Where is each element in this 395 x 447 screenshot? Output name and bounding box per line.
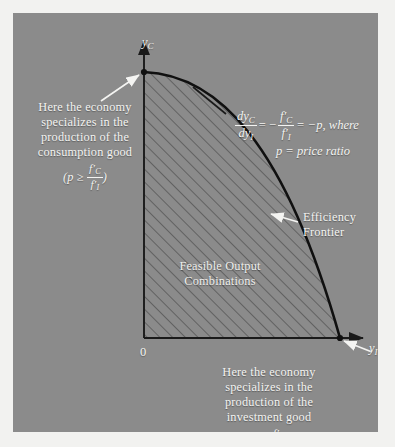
label-feasible-output-combinations: Feasible Output Combinations — [156, 259, 284, 289]
region-label-line: Feasible Output — [156, 259, 284, 274]
label-efficiency-frontier: Efficiency Frontier — [303, 210, 378, 240]
annotation-line: Here the economy — [189, 365, 349, 380]
y-axis-label: yC — [142, 35, 154, 51]
annotation-line: production of the — [21, 130, 149, 145]
frontier-label-line: Frontier — [303, 225, 378, 240]
annotation-consumption-specialization: Here the economy specializes in the prod… — [21, 100, 149, 193]
figure-panel: yC yI 0 Here the economy specializes in … — [13, 13, 378, 432]
formula-price-ratio: dyC dyI = − f′C f′I = −p, where p = pric… — [235, 109, 378, 159]
formula-price-ratio-definition: p = price ratio — [235, 144, 378, 159]
region-label-line: Combinations — [156, 274, 284, 289]
y-intercept-point — [141, 69, 147, 75]
annotation-condition: (p ≥ f′C f′I ) — [21, 162, 149, 193]
leader-arrow-investment — [344, 341, 372, 352]
annotation-condition: (p ≤ f′C f′I ) — [189, 427, 349, 432]
origin-label: 0 — [140, 345, 146, 360]
x-axis-label: yI — [369, 341, 378, 357]
leader-arrow-consumption — [101, 75, 139, 101]
formula-equals-first: = − — [259, 118, 276, 133]
annotation-line: Here the economy — [21, 100, 149, 115]
annotation-line: specializes in the — [189, 380, 349, 395]
formula-equals-second: = −p, where — [296, 118, 359, 133]
annotation-line: consumption good — [21, 145, 149, 160]
x-intercept-point — [337, 335, 343, 341]
formula-equation: dyC dyI = − f′C f′I = −p, where — [235, 109, 378, 141]
annotation-line: production of the — [189, 395, 349, 410]
annotation-line: specializes in the — [21, 115, 149, 130]
annotation-investment-specialization: Here the economy specializes in the prod… — [189, 365, 349, 432]
frontier-label-line: Efficiency — [303, 210, 378, 225]
annotation-line: investment good — [189, 410, 349, 425]
